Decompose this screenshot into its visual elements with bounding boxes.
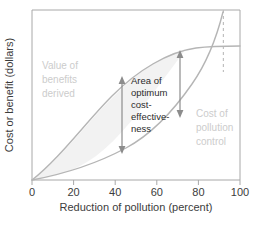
benefits-annotation-line-1: Value of [42,60,78,71]
x-tick-label-40: 40 [109,186,121,198]
benefits-annotation-line-3: derived [42,88,75,99]
x-tick-label-60: 60 [151,186,163,198]
benefits-annotation-line-2: benefits [42,74,77,85]
cost-benefit-chart: Cost or benefit (dollars) Reduction of p… [0,0,257,225]
cost-annotation: Cost of pollution control [196,108,233,147]
cost-annotation-line-3: control [196,136,226,147]
y-axis-title: Cost or benefit (dollars) [3,38,15,152]
optimum-annotation-line-3: cost- [131,99,152,110]
x-tick-label-20: 20 [67,186,79,198]
gap-arrow-right [177,50,184,118]
x-axis-ticks [32,180,240,185]
optimum-annotation-line-5: ness [131,123,151,134]
optimum-annotation-line-4: effective- [131,111,169,122]
optimum-annotation: Area of optimum cost- effective- ness [131,75,169,134]
cost-annotation-line-1: Cost of [196,108,228,119]
optimum-annotation-line-1: Area of [131,75,162,86]
chart-figure: Cost or benefit (dollars) Reduction of p… [0,0,257,225]
x-axis-title: Reduction of pollution (percent) [60,201,213,213]
x-tick-label-100: 100 [231,186,249,198]
x-tick-label-0: 0 [29,186,35,198]
optimum-annotation-line-2: optimum [131,87,168,98]
x-tick-label-80: 80 [192,186,204,198]
cost-annotation-line-2: pollution [196,122,233,133]
benefits-annotation: Value of benefits derived [42,60,78,99]
